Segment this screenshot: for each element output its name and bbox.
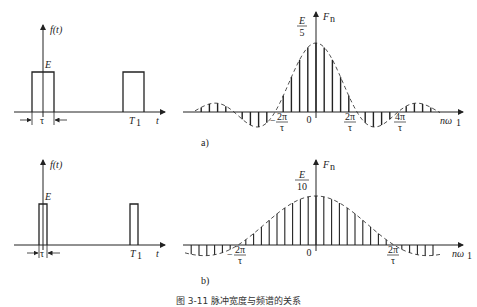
- figure-caption: 图 3-11 脉冲宽度与频谱的关系: [0, 294, 477, 307]
- svg-text:τ: τ: [348, 122, 352, 133]
- amplitude-label: E: [44, 59, 51, 70]
- svg-text:n: n: [330, 161, 335, 172]
- n-omega-axis-label: nω: [452, 248, 464, 259]
- panel-a-time-plot: f(t) E τ T 1 t: [14, 24, 165, 128]
- svg-text:1: 1: [467, 250, 472, 261]
- svg-text:τ: τ: [391, 255, 395, 266]
- tick-2pi-num: 2π: [345, 111, 355, 122]
- panel-a-spectrum: F n E 5 0 − 2π τ 2π τ 4π τ nω 1 a): [183, 11, 463, 149]
- n-omega-axis-label: nω: [440, 115, 452, 126]
- period-label: T: [130, 248, 137, 259]
- svg-text:1: 1: [456, 117, 461, 128]
- svg-text:−: −: [270, 115, 276, 126]
- svg-text:1: 1: [137, 250, 142, 261]
- f-axis-label: f(t): [50, 159, 63, 171]
- svg-text:τ: τ: [280, 122, 284, 133]
- origin-label: 0: [307, 247, 312, 258]
- panel-b-spectrum: F n E 10 0 − 2π τ 2π τ nω 1 b): [183, 159, 472, 287]
- pulse-periodic: [123, 72, 144, 112]
- t-axis-label: t: [156, 115, 159, 126]
- panel-a-label: a): [201, 137, 209, 149]
- peak-numerator: E: [298, 15, 305, 26]
- tick-neg-2pi-num: 2π: [235, 244, 245, 255]
- svg-text:n: n: [330, 13, 335, 24]
- svg-text:−: −: [227, 249, 233, 260]
- peak-denominator: 5: [300, 27, 305, 38]
- peak-numerator: E: [298, 169, 305, 180]
- period-label: T: [129, 115, 136, 126]
- svg-text:1: 1: [136, 117, 141, 128]
- peak-denominator: 10: [297, 181, 307, 192]
- origin-label: 0: [307, 114, 312, 125]
- width-label: τ: [40, 248, 44, 259]
- tick-4pi-num: 4π: [395, 111, 405, 122]
- width-label: τ: [40, 115, 44, 126]
- panel-b-time-plot: f(t) E τ T 1 t: [14, 159, 165, 261]
- tick-2pi-num: 2π: [388, 244, 398, 255]
- svg-text:τ: τ: [238, 255, 242, 266]
- pulse-periodic: [130, 204, 138, 245]
- panel-b-label: b): [201, 275, 209, 287]
- tick-neg-2pi-num: 2π: [277, 111, 287, 122]
- amplitude-label: E: [44, 191, 51, 202]
- fn-axis-label: F: [322, 159, 330, 170]
- t-axis-label: t: [156, 248, 159, 259]
- fn-axis-label: F: [322, 11, 330, 22]
- svg-text:τ: τ: [398, 122, 402, 133]
- f-axis-label: f(t): [50, 24, 63, 36]
